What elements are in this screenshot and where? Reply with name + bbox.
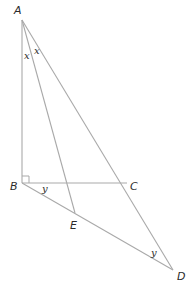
segment-ae bbox=[22, 20, 75, 213]
label-point-a: A bbox=[13, 4, 22, 17]
angle-label-x-right: x bbox=[34, 45, 40, 56]
label-point-d: D bbox=[177, 270, 185, 283]
angle-label-y-b: y bbox=[41, 183, 48, 194]
geometry-diagram: A B C E D x x y y bbox=[0, 0, 190, 291]
right-angle-marker bbox=[22, 176, 29, 183]
label-point-c: C bbox=[130, 180, 138, 193]
label-point-b: B bbox=[10, 180, 18, 193]
angle-label-x-left: x bbox=[24, 50, 30, 61]
segment-ad bbox=[22, 20, 173, 270]
angle-label-y-d: y bbox=[150, 247, 157, 258]
label-point-e: E bbox=[70, 219, 77, 232]
